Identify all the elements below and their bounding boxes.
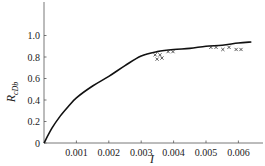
- y-tick-label: 1.0: [28, 30, 41, 41]
- x-marker: [158, 53, 161, 56]
- x-marker: [227, 46, 230, 49]
- x-tick-label: 0.006: [227, 147, 250, 158]
- chart: 0.0010.0020.0030.0040.0050.006 00.20.40.…: [0, 0, 265, 166]
- x-marker: [221, 48, 224, 51]
- curve-path: [44, 42, 251, 143]
- x-tick-label: 0.002: [98, 147, 121, 158]
- x-marker: [171, 50, 174, 53]
- y-axis-label: RcDb: [4, 82, 20, 104]
- x-marker: [155, 58, 158, 61]
- x-marker: [160, 56, 163, 59]
- y-tick-label: 0.4: [28, 95, 41, 106]
- x-marker: [239, 48, 242, 51]
- x-tick-label: 0.005: [195, 147, 218, 158]
- y-tick-label: 0.6: [28, 73, 41, 84]
- y-tick-label: 0: [35, 138, 40, 149]
- y-tick-label: 0.2: [28, 116, 41, 127]
- x-tick-label: 0.004: [162, 147, 185, 158]
- x-marker: [235, 48, 238, 51]
- x-marker: [154, 53, 157, 56]
- x-tick-label: 0.001: [65, 147, 88, 158]
- x-axis-label: I: [149, 152, 155, 166]
- axes: 0.0010.0020.0030.0040.0050.006 00.20.40.…: [28, 2, 264, 158]
- y-tick-label: 0.8: [28, 52, 41, 63]
- model-curve: [44, 42, 251, 143]
